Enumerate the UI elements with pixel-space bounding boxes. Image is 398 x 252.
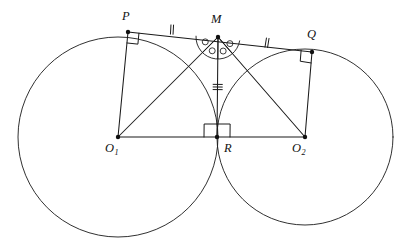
vertex-dot-R bbox=[215, 135, 219, 139]
point-label-Q: Q bbox=[307, 28, 316, 41]
point-label-P: P bbox=[122, 10, 130, 23]
point-label-R: R bbox=[224, 142, 232, 155]
tick-marks-group bbox=[170, 25, 269, 90]
point-label-O1: O1 bbox=[105, 142, 118, 155]
tick-MQ-2 bbox=[268, 38, 269, 47]
congruent-angles-at-M bbox=[196, 36, 240, 59]
vertex-dot-M bbox=[216, 35, 220, 39]
point-label-O1-base: O bbox=[105, 141, 114, 155]
radius-O2-Q bbox=[305, 52, 312, 137]
point-label-O2: O2 bbox=[292, 142, 305, 155]
angle-dot-3 bbox=[220, 48, 226, 54]
point-label-O2-subscript: 2 bbox=[301, 148, 305, 157]
point-label-O1-subscript: 1 bbox=[114, 148, 118, 157]
tick-PM-2 bbox=[173, 25, 174, 34]
tick-PM-1 bbox=[170, 25, 171, 34]
vertex-dot-O2 bbox=[303, 135, 307, 139]
point-label-O2-base: O bbox=[292, 141, 301, 155]
radius-O1-P bbox=[118, 32, 128, 137]
right-angle-at-R-mirror bbox=[217, 124, 230, 137]
point-label-M: M bbox=[211, 13, 221, 26]
tangent-line-PQ bbox=[128, 32, 312, 52]
vertex-dot-Q bbox=[310, 50, 314, 54]
right-angle-at-R bbox=[204, 124, 217, 137]
vertex-dot-O1 bbox=[116, 135, 120, 139]
geometry-canvas bbox=[0, 0, 398, 252]
vertex-dot-P bbox=[126, 30, 130, 34]
geometry-figure: P Q M R O1 O2 bbox=[0, 0, 398, 252]
angle-dot-2 bbox=[209, 48, 215, 54]
angle-dot-1 bbox=[202, 39, 208, 45]
tick-MQ-1 bbox=[265, 38, 266, 47]
